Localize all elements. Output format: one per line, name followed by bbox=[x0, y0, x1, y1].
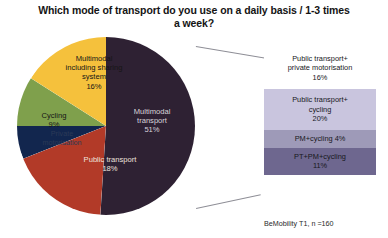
breakdown-item-label: Public transport+ bbox=[267, 54, 373, 63]
pie-chart: Multimodal including sharing system 16% … bbox=[17, 37, 195, 215]
breakdown-column: Public transport+private motorisation16%… bbox=[264, 48, 376, 175]
slice-label-cycling: Cycling 9% bbox=[23, 111, 85, 129]
source-note: BeMobility T1, n =160 bbox=[264, 219, 382, 228]
chart-title: Which mode of transport do you use on a … bbox=[38, 4, 350, 29]
breakdown-item: Public transport+private motorisation16% bbox=[264, 48, 376, 89]
breakdown-item: PT+PM+cycling11% bbox=[264, 148, 376, 175]
leader-line-bottom bbox=[196, 194, 261, 209]
slice-label-private-motorisation: Private motorisation bbox=[25, 130, 99, 147]
breakdown-item-label: PT+PM+cycling bbox=[267, 152, 373, 161]
breakdown-item-label-cont: cycling bbox=[267, 105, 373, 114]
breakdown-item-label: Public transport+ bbox=[267, 95, 373, 104]
slice-label-multimodal-sharing: Multimodal including sharing system 16% bbox=[39, 54, 149, 91]
breakdown-item-label-cont: private motorisation bbox=[267, 63, 373, 72]
pie-chart-figure: Which mode of transport do you use on a … bbox=[0, 0, 388, 238]
breakdown-item-value: 16% bbox=[267, 73, 373, 82]
breakdown-item: PM+cycling 4% bbox=[264, 130, 376, 147]
slice-label-public-transport: Public transport 18% bbox=[57, 155, 163, 173]
breakdown-item-value: 20% bbox=[267, 114, 373, 123]
leader-line-top bbox=[196, 46, 269, 59]
breakdown-item: Public transport+cycling20% bbox=[264, 89, 376, 130]
breakdown-item-label: PM+cycling 4% bbox=[267, 134, 373, 143]
slice-label-multimodal-transport: Multimodal transport 51% bbox=[115, 107, 189, 135]
breakdown-item-value: 11% bbox=[267, 161, 373, 170]
